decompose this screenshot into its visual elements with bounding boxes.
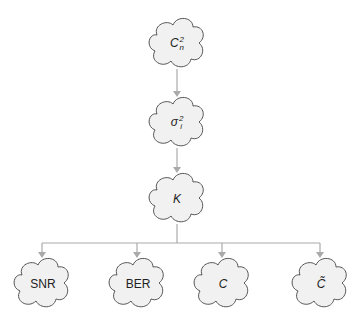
node-label-c: C <box>219 277 228 291</box>
node-label-ctilde: C̃ <box>317 277 326 291</box>
label-base: σ <box>171 115 178 129</box>
label-sub: i <box>179 123 183 131</box>
arrow-down-icon <box>316 252 324 258</box>
arrow-down-icon <box>218 252 226 258</box>
node-label-sigma: σ2i <box>171 115 184 131</box>
label-scripts: 2n <box>180 36 184 52</box>
connectors <box>42 69 320 253</box>
node-label-cn2: C2n <box>170 36 184 52</box>
arrow-down-icon <box>133 252 141 258</box>
arrow-down-icon <box>173 167 181 173</box>
arrow-down-icon <box>38 252 46 258</box>
nodes <box>14 18 346 306</box>
node-label-ber: BER <box>126 277 151 291</box>
label-sub: n <box>180 44 184 52</box>
label-scripts: 2i <box>179 115 183 131</box>
node-label-k: K <box>173 192 181 206</box>
label-base: C <box>170 36 179 50</box>
node-label-snr: SNR <box>30 277 55 291</box>
arrow-down-icon <box>173 91 181 97</box>
